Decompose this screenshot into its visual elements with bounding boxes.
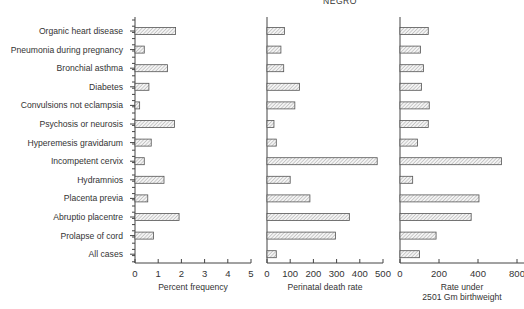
bar	[400, 176, 413, 183]
bar	[135, 139, 151, 146]
x-axis-title: Perinatal death rate	[287, 282, 362, 292]
bar	[400, 65, 423, 72]
bar	[135, 65, 167, 72]
category-label: Organic heart disease	[39, 26, 123, 36]
chart-title: NEGRO	[323, 0, 357, 6]
bar	[267, 102, 295, 109]
x-tick-label: 200	[305, 268, 321, 279]
bar	[135, 83, 149, 90]
bar	[267, 65, 284, 72]
category-label: Incompetent cervix	[51, 156, 124, 166]
x-tick-label: 400	[470, 268, 486, 279]
bar	[400, 214, 471, 221]
bar	[267, 139, 276, 146]
x-tick-label: 800	[509, 268, 524, 279]
x-tick-label: 3	[202, 268, 207, 279]
x-tick-label: 400	[352, 268, 368, 279]
category-label: Diabetes	[89, 82, 123, 92]
x-tick-label: 0	[264, 268, 269, 279]
category-label: Bronchial asthma	[57, 63, 124, 73]
x-tick-label: 100	[282, 268, 298, 279]
bar	[267, 28, 284, 35]
x-tick-label: 200	[431, 268, 447, 279]
bar	[400, 28, 428, 35]
bar	[135, 195, 148, 202]
bar	[135, 176, 164, 183]
panel-1: 012345Percent frequency	[130, 17, 254, 292]
bar	[267, 121, 274, 128]
category-label: Placenta previa	[64, 193, 123, 203]
category-label: Hyperemesis gravidarum	[27, 138, 123, 148]
bar	[267, 158, 377, 165]
bar	[400, 232, 436, 239]
panel-3: 0200400800Rate under2501 Gm birthweight	[397, 17, 524, 302]
bar	[267, 195, 310, 202]
bar	[135, 46, 144, 53]
bar	[400, 195, 479, 202]
bar	[135, 214, 179, 221]
bar	[267, 251, 276, 258]
bar	[400, 121, 428, 128]
panel-2: 0100200300400500Perinatal death rate	[264, 17, 391, 292]
bar	[267, 46, 281, 53]
chart-panels: 012345Percent frequency0100200300400500P…	[130, 17, 524, 302]
x-axis-title-line2: 2501 Gm birthweight	[422, 292, 502, 302]
category-label: Prolapse of cord	[60, 231, 123, 241]
x-tick-label: 5	[248, 268, 253, 279]
x-tick-label: 1	[156, 268, 161, 279]
x-tick-label: 2	[179, 268, 184, 279]
category-label: Pneumonia during pregnancy	[11, 45, 124, 55]
bar	[400, 46, 420, 53]
bar	[400, 102, 429, 109]
x-tick-label: 300	[329, 268, 345, 279]
category-labels: Organic heart diseasePneumonia during pr…	[11, 26, 124, 259]
category-label: All cases	[89, 249, 123, 259]
bar	[135, 28, 176, 35]
bar	[267, 176, 290, 183]
x-tick-label: 0	[397, 268, 402, 279]
category-label: Abruptio placentre	[53, 212, 123, 222]
chart-figure: NEGRO Organic heart diseasePneumonia dur…	[0, 0, 524, 309]
bar	[267, 214, 349, 221]
x-axis-title: Percent frequency	[158, 282, 228, 292]
x-tick-label: 0	[132, 268, 137, 279]
bar	[267, 83, 299, 90]
x-axis-title: Rate under	[441, 282, 484, 292]
bar	[400, 251, 420, 258]
bar	[400, 139, 418, 146]
bar	[135, 232, 154, 239]
x-tick-label: 500	[375, 268, 391, 279]
bar	[135, 158, 144, 165]
x-tick-label: 4	[225, 268, 230, 279]
bar	[400, 83, 421, 90]
category-label: Hydramnios	[77, 175, 123, 185]
category-label: Psychosis or neurosis	[39, 119, 123, 129]
bar	[400, 158, 501, 165]
bar	[135, 121, 174, 128]
category-label: Convulsions not eclampsia	[21, 100, 123, 110]
bar	[267, 232, 335, 239]
bar	[135, 102, 140, 109]
